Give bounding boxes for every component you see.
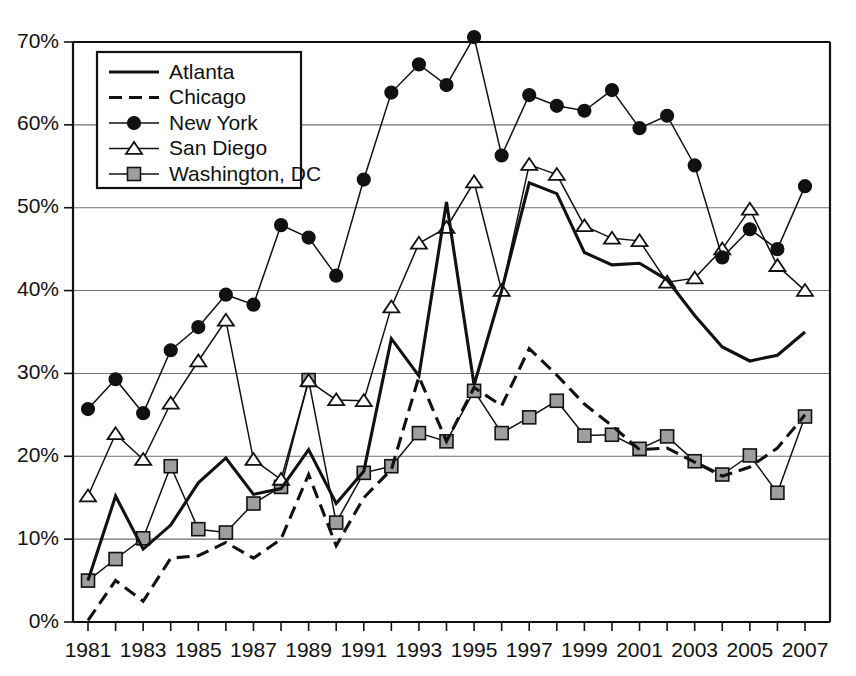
series-san-diego-triangle-marker — [687, 272, 703, 284]
chart-container: 0%10%20%30%40%50%60%70% 1981198319851987… — [0, 0, 856, 676]
series-san-diego-triangle-marker — [163, 397, 179, 409]
series-new-york-circle-marker — [606, 84, 619, 97]
legend-label-atlanta: Atlanta — [169, 60, 235, 83]
series-washington-dc-square-marker — [247, 497, 260, 510]
x-axis-tick-label: 1983 — [120, 638, 167, 661]
series-new-york-circle-marker — [82, 403, 95, 416]
series-new-york-circle-marker — [468, 31, 481, 44]
series-san-diego-triangle-marker — [383, 301, 399, 313]
legend-label-new-york: New York — [169, 111, 258, 134]
series-san-diego-triangle-marker — [742, 203, 758, 215]
legend-washington-dc-square-marker — [128, 168, 141, 181]
series-washington-dc-square-marker — [771, 486, 784, 499]
series-new-york-circle-marker — [523, 89, 536, 102]
series-washington-dc-square-marker — [578, 429, 591, 442]
series-new-york-circle-marker — [550, 99, 563, 112]
series-washington-dc-square-marker — [523, 411, 536, 424]
y-axis-tick-label: 0% — [29, 609, 59, 632]
series-new-york-circle-marker — [661, 109, 674, 122]
series-san-diego-triangle-marker — [549, 168, 565, 180]
legend-new-york-circle-marker — [128, 117, 141, 130]
y-axis-tick-label: 10% — [17, 526, 59, 549]
series-san-diego-triangle-marker — [245, 453, 261, 465]
series-new-york-circle-marker — [413, 58, 426, 71]
x-axis-tick-label: 1989 — [285, 638, 332, 661]
series-new-york-circle-marker — [495, 149, 508, 162]
series-washington-dc-square-marker — [661, 430, 674, 443]
line-chart: 0%10%20%30%40%50%60%70% 1981198319851987… — [0, 0, 856, 676]
series-washington-dc-square-marker — [164, 460, 177, 473]
y-axis-tick-label: 30% — [17, 360, 59, 383]
x-axis-tick-label: 1999 — [561, 638, 608, 661]
series-atlanta — [88, 183, 805, 581]
series-new-york-circle-marker — [688, 159, 701, 172]
series-new-york-circle-marker — [385, 86, 398, 99]
series-washington-dc-square-marker — [550, 394, 563, 407]
series-san-diego-triangle-marker — [466, 175, 482, 187]
y-axis-tick-label: 60% — [17, 111, 59, 134]
chart-legend: AtlantaChicagoNew YorkSan DiegoWashingto… — [97, 52, 321, 188]
series-new-york-circle-marker — [440, 79, 453, 92]
series-washington-dc-square-marker — [330, 516, 343, 529]
series-new-york-circle-marker — [771, 243, 784, 256]
series-washington-dc — [82, 374, 812, 588]
x-axis-tick-label: 1995 — [451, 638, 498, 661]
series-new-york-circle-marker — [799, 180, 812, 193]
x-axis-tick-label: 1987 — [230, 638, 277, 661]
series-new-york-circle-marker — [275, 219, 288, 232]
series-new-york-circle-marker — [633, 122, 646, 135]
series-new-york-circle-marker — [357, 173, 370, 186]
series-san-diego-triangle-marker — [190, 354, 206, 366]
series-washington-dc-square-marker — [743, 449, 756, 462]
series-new-york-circle-marker — [302, 231, 315, 244]
series-new-york-circle-marker — [330, 269, 343, 282]
x-axis-tick-label: 2003 — [671, 638, 718, 661]
legend-label-san-diego: San Diego — [169, 136, 267, 159]
series-washington-dc-square-marker — [109, 553, 122, 566]
series-san-diego-triangle-marker — [80, 489, 96, 501]
x-axis-tick-label: 1991 — [340, 638, 387, 661]
legend-label-washington-dc: Washington, DC — [169, 162, 321, 185]
x-axis-tick-label: 1997 — [506, 638, 553, 661]
x-axis-tick-label: 1981 — [65, 638, 112, 661]
series-new-york-circle-marker — [247, 298, 260, 311]
series-new-york-circle-marker — [219, 288, 232, 301]
series-san-diego-triangle-marker — [521, 158, 537, 170]
y-axis-tick-label: 50% — [17, 194, 59, 217]
x-axis-labels-group: 1981198319851987198919911993199519971999… — [65, 638, 829, 661]
y-axis-tick-label: 20% — [17, 443, 59, 466]
series-san-diego-triangle-marker — [328, 393, 344, 405]
series-san-diego-triangle-marker — [218, 314, 234, 326]
series-line-washington-dc — [88, 380, 805, 581]
x-axis-tick-label: 1985 — [175, 638, 222, 661]
x-axis-tick-label: 2007 — [782, 638, 829, 661]
series-san-diego-triangle-marker — [411, 237, 427, 249]
series-san-diego-triangle-marker — [576, 219, 592, 231]
series-washington-dc-square-marker — [219, 526, 232, 539]
series-washington-dc-square-marker — [192, 523, 205, 536]
series-san-diego-triangle-marker — [769, 259, 785, 271]
x-axis-tick-label: 1993 — [396, 638, 443, 661]
y-axis-labels-group: 0%10%20%30%40%50%60%70% — [17, 29, 59, 632]
x-axis-tick-label: 2001 — [616, 638, 663, 661]
series-new-york-circle-marker — [109, 373, 122, 386]
series-san-diego-triangle-marker — [604, 232, 620, 244]
series-new-york-circle-marker — [716, 251, 729, 264]
series-washington-dc-square-marker — [412, 427, 425, 440]
series-new-york-circle-marker — [192, 321, 205, 334]
legend-label-chicago: Chicago — [169, 85, 246, 108]
series-line-atlanta — [88, 183, 805, 581]
series-new-york-circle-marker — [743, 223, 756, 236]
series-san-diego-triangle-marker — [108, 427, 124, 439]
series-washington-dc-square-marker — [495, 427, 508, 440]
y-axis-tick-label: 70% — [17, 29, 59, 52]
x-axis-tick-label: 2005 — [726, 638, 773, 661]
series-new-york-circle-marker — [578, 104, 591, 117]
series-new-york-circle-marker — [137, 407, 150, 420]
series-new-york-circle-marker — [164, 344, 177, 357]
y-axis-tick-label: 40% — [17, 277, 59, 300]
